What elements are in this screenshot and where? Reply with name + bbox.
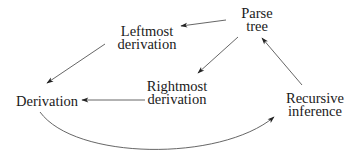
node-parse-line2: tree [232,20,282,33]
node-recursive-line2: inference [282,105,348,118]
node-derivation-label: Derivation [12,95,82,108]
node-rightmost-line2: derivation [142,93,212,106]
arrow-parse-to-leftmost [181,20,226,26]
node-recursive-inference: Recursive inference [282,92,348,118]
node-parse-tree: Parse tree [232,7,282,33]
arrow-derivation-to-recursive [40,112,274,149]
arrow-recursive-to-parse [262,38,302,85]
diagram-canvas: Leftmost derivation Parse tree Rightmost… [0,0,359,161]
arrow-parse-to-rightmost [198,37,238,73]
arrow-leftmost-to-derivation [47,44,105,83]
node-derivation: Derivation [12,95,82,108]
node-leftmost-derivation: Leftmost derivation [112,25,182,51]
node-leftmost-line2: derivation [112,38,182,51]
node-rightmost-derivation: Rightmost derivation [142,80,212,106]
